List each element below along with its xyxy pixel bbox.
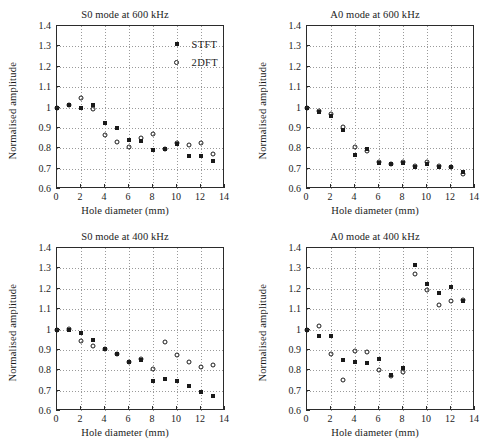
x-tick-mark — [224, 184, 225, 188]
y-tick-label: 1 — [24, 101, 51, 112]
x-tick-label: 12 — [445, 413, 455, 424]
y-tick-label: 0.9 — [274, 343, 301, 354]
open-circle-marker — [139, 136, 144, 141]
open-circle-marker — [449, 164, 454, 169]
y-tick-label: 1 — [24, 323, 51, 334]
x-tick-label: 4 — [352, 191, 357, 202]
open-circle-marker — [365, 350, 370, 355]
plot-area — [56, 247, 224, 410]
open-circle-marker — [449, 298, 454, 303]
open-circle-marker — [353, 145, 358, 150]
y-tick-mark — [56, 25, 60, 26]
filled-square-marker — [79, 106, 83, 110]
y-tick-label: 0.9 — [24, 343, 51, 354]
x-tick-label: 2 — [328, 413, 333, 424]
legend-item-stft: STFT — [169, 37, 218, 51]
y-tick-mark — [306, 147, 310, 148]
filled-square-marker — [329, 334, 333, 338]
y-tick-mark — [56, 369, 60, 370]
x-tick-label: 0 — [54, 413, 59, 424]
y-tick-label: 1.2 — [274, 60, 301, 71]
y-tick-mark — [306, 45, 310, 46]
gridline-horizontal — [307, 370, 475, 371]
gridline-horizontal — [57, 87, 225, 88]
x-tick-label: 6 — [376, 413, 381, 424]
x-axis-label: Hole diameter (mm) — [0, 205, 250, 216]
y-tick-label: 1.1 — [24, 303, 51, 314]
open-circle-marker — [187, 359, 192, 364]
open-circle-marker — [79, 338, 84, 343]
open-circle-marker — [139, 357, 144, 362]
x-tick-mark — [224, 406, 225, 410]
y-tick-mark — [306, 86, 310, 87]
open-circle-marker — [151, 367, 156, 372]
gridline-horizontal — [307, 350, 475, 351]
y-tick-label: 0.6 — [24, 183, 51, 194]
filled-square-marker — [449, 285, 453, 289]
x-axis-label: Hole diameter (mm) — [250, 427, 500, 438]
y-tick-label: 0.8 — [274, 364, 301, 375]
open-circle-marker — [187, 143, 192, 148]
open-circle-marker — [341, 125, 346, 130]
x-tick-label: 6 — [126, 191, 131, 202]
x-tick-mark — [152, 184, 153, 188]
open-circle-marker — [169, 60, 185, 65]
y-tick-mark — [56, 45, 60, 46]
y-tick-mark — [56, 308, 60, 309]
gridline-horizontal — [57, 268, 225, 269]
legend: STFT2DFT — [169, 37, 218, 73]
y-axis-label-text: Normalised amplitude — [7, 284, 18, 382]
open-circle-marker — [377, 159, 382, 164]
open-circle-marker — [127, 359, 132, 364]
y-axis-label-text: Normalised amplitude — [7, 62, 18, 160]
y-tick-mark — [306, 349, 310, 350]
y-tick-mark — [56, 390, 60, 391]
y-axis-label: Normalised amplitude — [254, 222, 270, 444]
filled-square-marker — [413, 263, 417, 267]
x-tick-mark — [80, 184, 81, 188]
filled-square-marker — [127, 138, 131, 142]
x-tick-label: 0 — [304, 413, 309, 424]
open-circle-marker — [91, 107, 96, 112]
y-tick-mark — [56, 410, 60, 411]
y-tick-mark — [56, 168, 60, 169]
gridline-horizontal — [57, 169, 225, 170]
x-tick-label: 12 — [445, 191, 455, 202]
x-tick-mark — [176, 184, 177, 188]
x-tick-label: 2 — [78, 413, 83, 424]
y-tick-label: 0.8 — [24, 364, 51, 375]
filled-square-marker — [425, 282, 429, 286]
open-circle-marker — [341, 377, 346, 382]
x-tick-mark — [200, 184, 201, 188]
gridline-horizontal — [57, 350, 225, 351]
x-tick-mark — [378, 184, 379, 188]
panel-title: S0 mode at 400 kHz — [0, 231, 250, 242]
open-circle-marker — [317, 109, 322, 114]
x-tick-mark — [426, 184, 427, 188]
x-axis-label: Hole diameter (mm) — [0, 427, 250, 438]
filled-square-marker — [341, 358, 345, 362]
y-tick-mark — [56, 288, 60, 289]
y-tick-label: 0.7 — [274, 162, 301, 173]
open-circle-marker — [115, 352, 120, 357]
y-axis-label: Normalised amplitude — [4, 0, 20, 222]
x-tick-label: 0 — [304, 191, 309, 202]
open-circle-marker — [211, 152, 216, 157]
gridline-horizontal — [307, 46, 475, 47]
x-tick-mark — [176, 406, 177, 410]
y-tick-mark — [306, 247, 310, 248]
open-circle-marker — [317, 324, 322, 329]
filled-square-marker — [317, 334, 321, 338]
y-tick-label: 1.3 — [24, 262, 51, 273]
open-circle-marker — [151, 132, 156, 137]
open-circle-marker — [211, 363, 216, 368]
y-tick-mark — [306, 308, 310, 309]
open-circle-marker — [67, 327, 72, 332]
x-tick-mark — [128, 406, 129, 410]
gridline-horizontal — [307, 391, 475, 392]
x-tick-label: 10 — [421, 191, 431, 202]
y-tick-label: 1.4 — [24, 20, 51, 31]
y-tick-label: 1.4 — [24, 242, 51, 253]
legend-label: 2DFT — [192, 57, 218, 68]
x-tick-mark — [402, 184, 403, 188]
